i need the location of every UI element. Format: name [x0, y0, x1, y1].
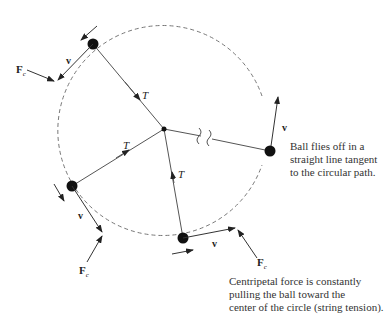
broken-string-b: [212, 139, 270, 151]
centripetal-annotation: Centripetal force is constantly pulling …: [229, 275, 384, 314]
force-arrow-bottom: [238, 230, 257, 258]
tension-arrow-top: [125, 82, 140, 100]
force-arrow-top-left: [27, 70, 54, 81]
circular-path: [58, 26, 262, 236]
string-left: [72, 129, 164, 186]
motion-arrow-top: [81, 26, 97, 40]
velocity-arrow-top-left: [58, 44, 93, 80]
force-label-bottom: Fc: [257, 256, 267, 271]
tension-label-bottom: T: [178, 168, 184, 180]
broken-string-a: [164, 129, 201, 136]
velocity-label-left: v: [78, 210, 83, 221]
motion-arrow-left: [54, 184, 64, 201]
ball-released: [265, 146, 276, 157]
velocity-arrow-released: [271, 97, 278, 146]
force-label-top-left: Fc: [16, 63, 26, 78]
break-mark-2: [207, 130, 211, 146]
force-arrow-left: [87, 236, 102, 262]
velocity-arrow-left: [72, 186, 102, 232]
center-point: [162, 127, 167, 132]
motion-arrow-bottom: [172, 250, 193, 254]
tension-label-left: T: [123, 139, 129, 151]
velocity-label-bottom: v: [212, 238, 217, 249]
tension-arrow-left: [116, 150, 129, 158]
velocity-label-released: v: [282, 122, 287, 133]
velocity-arrow-bottom: [183, 228, 235, 238]
force-label-left: Fc: [79, 264, 89, 279]
string-bottom: [164, 129, 183, 238]
fly-off-annotation: Ball flies off in a straight line tangen…: [290, 140, 377, 179]
velocity-label-top-left: v: [66, 55, 71, 66]
tension-label-top: T: [142, 89, 148, 101]
